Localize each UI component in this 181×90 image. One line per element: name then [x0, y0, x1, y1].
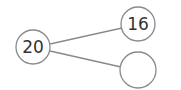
number-bond-diagram: 20 16 [0, 0, 181, 90]
part-node-2-empty[interactable] [120, 52, 156, 88]
edge-whole-to-part-1 [50, 28, 122, 44]
part-node-1-label: 16 [127, 14, 149, 34]
part-node-1: 16 [121, 7, 155, 41]
whole-node: 20 [16, 30, 50, 64]
edge-whole-to-part-2 [50, 51, 121, 67]
whole-node-label: 20 [22, 37, 44, 57]
